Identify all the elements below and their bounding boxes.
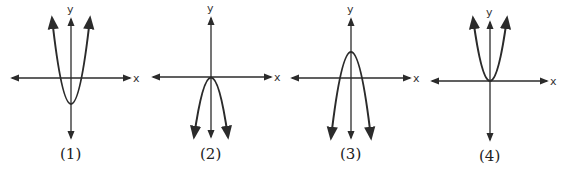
graph-2: x y (2) bbox=[153, 2, 281, 163]
graph-caption: (3) bbox=[340, 145, 361, 163]
x-axis-label: x bbox=[133, 72, 140, 85]
graph-caption: (2) bbox=[200, 145, 221, 163]
x-axis-label: x bbox=[413, 72, 420, 85]
y-axis-label: y bbox=[207, 2, 214, 15]
graph-caption: (1) bbox=[60, 145, 81, 163]
x-axis-label: x bbox=[550, 75, 557, 88]
x-axis-label: x bbox=[274, 71, 281, 84]
parabola-figure: x y (1) x y (2) x y (3) x y (4) bbox=[0, 0, 562, 177]
y-axis-label: y bbox=[347, 3, 354, 16]
graph-3: x y (3) bbox=[292, 3, 420, 163]
y-axis-label: y bbox=[67, 3, 74, 16]
graph-caption: (4) bbox=[479, 147, 500, 165]
y-axis-label: y bbox=[486, 6, 493, 19]
graph-4: x y (4) bbox=[432, 6, 557, 165]
graph-1: x y (1) bbox=[12, 3, 140, 163]
